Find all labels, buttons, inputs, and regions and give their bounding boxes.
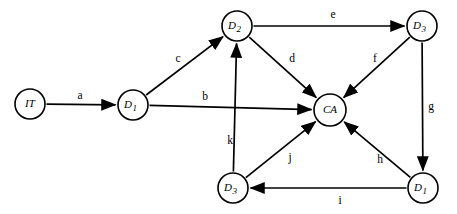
edge-g [422,42,423,170]
edges-layer [46,26,422,188]
node-D3bot[interactable]: D3 [218,173,248,203]
edge-f [344,37,410,97]
edge-label-j: j [287,151,291,164]
edge-label-h: h [377,153,383,165]
edge-label-c: c [175,52,180,64]
node-D2[interactable]: D2 [222,11,252,41]
directed-graph: ITD1D2D3CAD3D1 abcdefghijk [0,0,457,214]
edge-a [46,104,115,105]
edge-j [246,122,316,178]
node-label-CA: CA [323,103,337,115]
edge-h [344,122,410,178]
node-D1b[interactable]: D1 [408,173,438,203]
edge-label-g: g [428,100,434,113]
node-CA[interactable]: CA [314,94,346,126]
edge-label-d: d [289,52,295,64]
edge-label-f: f [373,52,377,64]
edge-label-b: b [202,90,208,102]
edge-label-i: i [338,194,341,206]
node-D1a[interactable]: D1 [118,90,148,120]
node-D3top[interactable]: D3 [407,11,437,41]
edge-d [249,37,316,98]
edge-b [149,105,311,109]
edge-c [146,37,223,95]
edge-label-e: e [330,8,335,20]
diagram-canvas: ITD1D2D3CAD3D1 abcdefghijk [0,0,457,214]
edge-label-k: k [227,134,233,146]
edge-label-a: a [77,89,82,101]
node-label-IT: IT [24,97,36,109]
node-IT[interactable]: IT [15,89,45,119]
